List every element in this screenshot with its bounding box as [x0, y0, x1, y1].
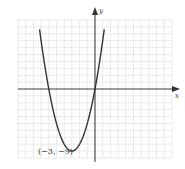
y-axis-arrow-icon: [92, 7, 98, 15]
x-axis-label: x: [175, 92, 179, 100]
parabola-graph: x y (−3, −9): [0, 0, 185, 169]
y-axis-label: y: [98, 7, 104, 15]
vertex-label: (−3, −9): [38, 147, 73, 156]
